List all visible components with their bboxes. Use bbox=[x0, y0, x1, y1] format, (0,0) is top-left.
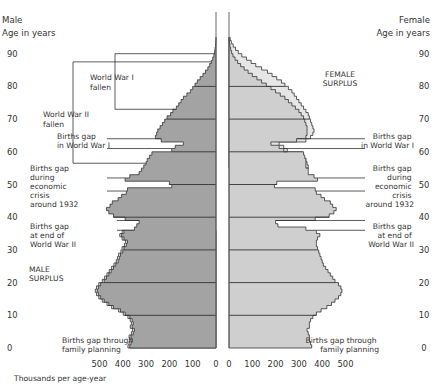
male-bar-age-51 bbox=[125, 178, 216, 181]
female-bar-age-54 bbox=[229, 168, 308, 171]
female-bar-age-57 bbox=[229, 158, 306, 161]
male-bar-age-27 bbox=[119, 256, 216, 259]
male-bar-age-45 bbox=[118, 198, 216, 201]
male-bar-age-3 bbox=[131, 335, 216, 338]
female-bar-age-38 bbox=[229, 220, 276, 223]
male-bar-age-65 bbox=[157, 132, 216, 135]
male-bar-age-64 bbox=[155, 135, 216, 138]
age-tick-left-50: 50 bbox=[7, 180, 18, 190]
female-bar-age-28 bbox=[229, 253, 320, 256]
male-bar-age-2 bbox=[132, 338, 216, 341]
female-bar-age-18 bbox=[229, 286, 341, 289]
male-bar-age-86 bbox=[210, 64, 216, 67]
female-bar-age-87 bbox=[229, 60, 238, 63]
female-bar-age-88 bbox=[229, 57, 235, 60]
female-bar-age-51 bbox=[229, 178, 318, 181]
female-bar-age-49 bbox=[229, 185, 274, 188]
male-age-header: Age in years bbox=[2, 28, 56, 38]
female-bar-age-84 bbox=[229, 70, 248, 73]
age-tick-right-70: 70 bbox=[419, 114, 430, 124]
female-value-tick-300: 300 bbox=[291, 359, 307, 369]
annotation-right-gap-1932: Births gap during economic crisis around… bbox=[366, 164, 415, 209]
male-bar-age-1 bbox=[131, 341, 216, 344]
age-tick-left-20: 20 bbox=[7, 278, 18, 288]
age-ticks-right: 0102030405060708090 bbox=[419, 49, 430, 353]
male-bar-age-42 bbox=[106, 207, 216, 210]
male-bar-age-13 bbox=[109, 302, 216, 305]
male-bar-age-76 bbox=[183, 96, 216, 99]
male-bar-age-81 bbox=[197, 80, 216, 83]
male-bar-age-77 bbox=[187, 93, 216, 96]
female-bar-age-15 bbox=[229, 296, 339, 299]
male-surplus-label-1: MALE bbox=[29, 265, 50, 274]
male-bar-age-52 bbox=[130, 175, 216, 178]
chart-svg: Male Age in years Female Age in years 01… bbox=[0, 0, 444, 386]
male-value-tick-0: 0 bbox=[213, 359, 218, 369]
male-bar-age-47 bbox=[126, 191, 216, 194]
female-value-tick-200: 200 bbox=[268, 359, 284, 369]
annotation-ww2-fallen: World War II fallen bbox=[43, 110, 91, 129]
male-bar-age-66 bbox=[158, 129, 216, 132]
female-bar-age-1 bbox=[229, 341, 311, 344]
female-bar-age-23 bbox=[229, 270, 328, 273]
age-tick-right-0: 0 bbox=[421, 343, 426, 353]
female-bar-age-81 bbox=[229, 80, 262, 83]
male-bar-age-68 bbox=[162, 122, 216, 125]
female-bar-age-56 bbox=[229, 162, 306, 165]
annotation-left-gap-1932: Births gap during economic crisis around… bbox=[30, 164, 79, 209]
male-bar-age-71 bbox=[171, 113, 216, 116]
female-bar-age-66 bbox=[229, 129, 307, 132]
male-header: Male bbox=[2, 15, 22, 25]
male-bar-age-24 bbox=[113, 266, 216, 269]
female-bar-age-26 bbox=[229, 260, 322, 263]
female-bar-age-29 bbox=[229, 250, 319, 253]
female-value-tick-0: 0 bbox=[226, 359, 231, 369]
male-bar-age-8 bbox=[132, 319, 216, 322]
male-bar-age-60 bbox=[172, 149, 216, 152]
male-bar-age-12 bbox=[113, 305, 216, 308]
female-value-tick-400: 400 bbox=[314, 359, 330, 369]
female-bar-age-89 bbox=[229, 54, 233, 57]
female-bar-age-75 bbox=[229, 99, 288, 102]
male-bar-age-17 bbox=[97, 289, 216, 292]
female-bar-age-86 bbox=[229, 64, 241, 67]
male-bar-age-54 bbox=[141, 168, 216, 171]
female-bar-age-52 bbox=[229, 175, 314, 178]
female-age-header: Age in years bbox=[376, 28, 430, 38]
male-bar-age-37 bbox=[137, 224, 216, 227]
male-value-tick-500: 500 bbox=[92, 359, 108, 369]
male-value-tick-400: 400 bbox=[115, 359, 131, 369]
male-bar-age-25 bbox=[116, 263, 216, 266]
female-bar-age-25 bbox=[229, 263, 323, 266]
female-bar-age-3 bbox=[229, 335, 309, 338]
male-bar-age-57 bbox=[147, 158, 216, 161]
male-bar-age-16 bbox=[98, 292, 216, 295]
population-pyramid-chart: Male Age in years Female Age in years 01… bbox=[0, 0, 444, 386]
age-tick-right-20: 20 bbox=[419, 278, 430, 288]
female-bar-age-16 bbox=[229, 292, 341, 295]
age-tick-left-90: 90 bbox=[7, 49, 18, 59]
male-bar-age-11 bbox=[120, 309, 216, 312]
female-bar-age-17 bbox=[229, 289, 342, 292]
value-ticks: 50040030020010000100200300400500 bbox=[92, 359, 354, 369]
male-bar-age-46 bbox=[122, 194, 216, 197]
female-bar-age-34 bbox=[229, 234, 320, 237]
female-bar-age-33 bbox=[229, 237, 318, 240]
male-bar-age-70 bbox=[167, 116, 216, 119]
female-bar-age-39 bbox=[229, 217, 315, 220]
male-bar-age-15 bbox=[101, 296, 216, 299]
male-bar-age-61 bbox=[175, 145, 216, 148]
female-bar-age-13 bbox=[229, 302, 332, 305]
male-bar-age-43 bbox=[110, 204, 216, 207]
male-bar-age-5 bbox=[134, 328, 216, 331]
male-bar-age-69 bbox=[165, 119, 216, 122]
female-bar-age-11 bbox=[229, 309, 321, 312]
male-value-tick-300: 300 bbox=[138, 359, 154, 369]
annotation-right-gap-ww2: Births gap at end of World War II bbox=[368, 222, 414, 249]
annotation-ww1-fallen: World War I fallen bbox=[90, 73, 136, 92]
male-bar-age-44 bbox=[112, 201, 216, 204]
female-bar-age-55 bbox=[229, 165, 306, 168]
female-bar-age-53 bbox=[229, 171, 308, 174]
pyramid-shapes bbox=[95, 37, 342, 348]
male-value-tick-100: 100 bbox=[185, 359, 201, 369]
